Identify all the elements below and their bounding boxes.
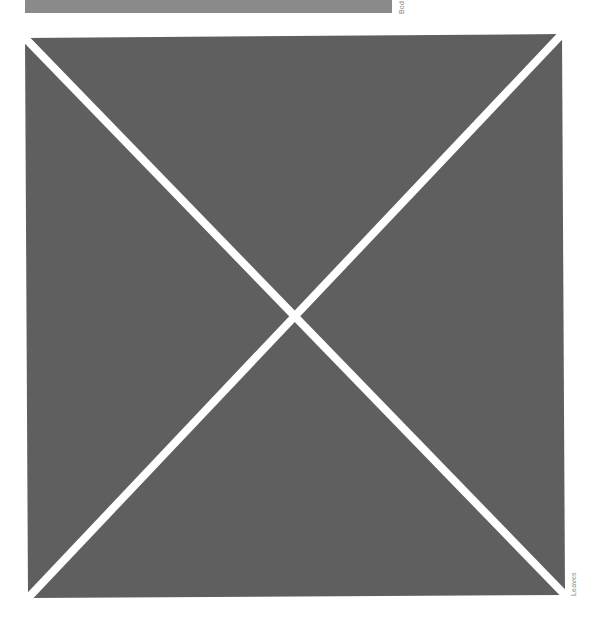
- main-image-caption: Leaves: [570, 572, 577, 596]
- main-image-placeholder: [0, 0, 608, 627]
